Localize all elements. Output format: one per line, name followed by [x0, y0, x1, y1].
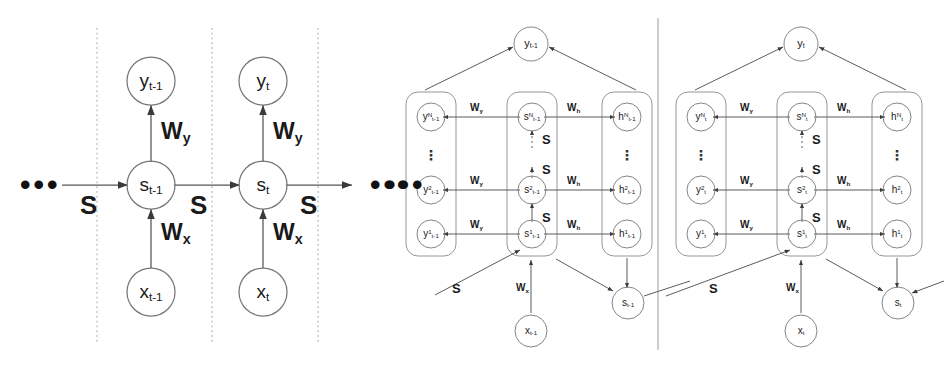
edge-hcol-to-y-t — [819, 47, 906, 90]
weight-label-wy-2-t-1: Wy — [470, 176, 483, 187]
weight-label-wy-N-t: Wy — [740, 103, 753, 114]
skip-label-s-t-1: S — [452, 282, 461, 295]
weight-label-wh-N-t-1: Wh — [567, 103, 580, 114]
node-label-y-t-1: yt-1 — [139, 71, 162, 92]
node-label-y1-t: y1t — [696, 229, 706, 240]
node-label-hN-t-1: hNt-1 — [618, 112, 635, 123]
edge-ycol-to-y-t — [695, 47, 783, 90]
node-label-s-t-1: st-1 — [139, 175, 162, 196]
weight-label-wh-1-t: Wh — [837, 220, 850, 231]
node-label-x-t-1-r: xt-1 — [525, 326, 537, 337]
weight-label-wh-2-t: Wh — [837, 176, 850, 187]
edge-hcol-to-y-t-1 — [549, 47, 636, 90]
stack-label-s-2-t: S — [812, 163, 821, 176]
weight-label-wx-t-1-r: Wx — [516, 283, 529, 294]
skip-label-s-t: S — [709, 282, 718, 295]
node-label-y-agg-t: yt — [797, 38, 804, 51]
node-label-h2-t-1: h2t-1 — [619, 185, 635, 196]
node-label-x-t-r: xt — [798, 326, 805, 337]
vertical-ellipsis-h-t-1: ⋮ — [620, 148, 634, 162]
weight-label-wy-1-t: Wy — [740, 220, 753, 231]
node-label-hN-t: hNt — [891, 112, 903, 123]
node-label-yN-t: yNt — [695, 112, 706, 123]
node-label-y-agg-t-1: yt-1 — [524, 38, 537, 51]
node-label-s-t: st — [257, 175, 270, 196]
node-label-s2-t: s2t — [797, 185, 807, 196]
left-ellipsis-start: ••• — [20, 170, 61, 200]
weight-label-wy-N-t-1: Wy — [470, 103, 483, 114]
weight-label-wy-t: Wy — [273, 120, 303, 145]
recurrent-label-s-3: S — [300, 192, 317, 218]
stack-label-s-2-t-1: S — [542, 163, 551, 176]
node-label-x-t-1: xt-1 — [139, 282, 162, 303]
right-diagram-group — [406, 18, 944, 350]
node-label-y1-t-1: y1t-1 — [423, 229, 439, 240]
edge-ycol-to-y-t-1 — [425, 47, 513, 90]
stack-label-s-1-t-1: S — [542, 211, 551, 224]
weight-label-wx-t-1: Wx — [161, 221, 191, 246]
stack-label-s-1-t: S — [812, 211, 821, 224]
weight-label-wy-1-t-1: Wy — [470, 220, 483, 231]
edge-skip-S-t — [666, 250, 790, 296]
node-label-yN-t-1: yNt-1 — [423, 112, 440, 123]
weight-label-wh-N-t: Wh — [837, 103, 850, 114]
node-label-y-t: yt — [257, 71, 270, 92]
node-label-sN-t-1: sNt-1 — [524, 112, 541, 123]
weight-label-wy-2-t: Wy — [740, 176, 753, 187]
weight-label-wh-1-t-1: Wh — [567, 220, 580, 231]
node-label-sN-t: sNt — [796, 112, 807, 123]
node-label-h1-t: h1t — [892, 229, 903, 240]
node-label-h2-t: h2t — [892, 185, 903, 196]
node-label-s1-t: s1t — [797, 229, 807, 240]
recurrent-label-s-2: S — [190, 192, 207, 218]
node-label-s-agg-t: st — [895, 298, 902, 309]
edge-scol-to-sagg-t — [826, 259, 883, 291]
weight-label-wx-t-r: Wx — [786, 283, 799, 294]
stack-label-s-N-t-1: S — [542, 133, 551, 146]
weight-label-wy-t-1: Wy — [161, 120, 191, 145]
right-ellipsis-start: ••• — [385, 170, 426, 200]
weight-label-wh-2-t-1: Wh — [567, 176, 580, 187]
node-label-s2-t-1: s2t-1 — [524, 185, 540, 196]
edge-sagg-in-t — [912, 281, 944, 293]
left-diagram-group — [62, 28, 352, 343]
edge-scol-to-sagg-t-1 — [556, 259, 613, 291]
node-label-y2-t: y2t — [696, 185, 706, 196]
edge-sagg-out-t-1 — [644, 281, 690, 296]
vertical-ellipsis-y-t: ⋮ — [694, 148, 708, 162]
node-label-x-t: xt — [257, 282, 270, 303]
stack-label-s-N-t: S — [812, 133, 821, 146]
weight-label-wx-t: Wx — [273, 221, 303, 246]
recurrent-label-s-1: S — [80, 192, 97, 218]
vertical-ellipsis-h-t: ⋮ — [890, 148, 904, 162]
figure-canvas: ••• ••• yt-1 st-1 xt-1 yt st xt Wy Wx Wy… — [0, 0, 949, 367]
vertical-ellipsis-y-t-1: ⋮ — [424, 148, 438, 162]
node-label-s-agg-t-1: st-1 — [622, 298, 634, 309]
edge-skip-S-t-1 — [435, 250, 520, 295]
node-label-h1-t-1: h1t-1 — [619, 229, 635, 240]
node-label-y2-t-1: y2t-1 — [423, 185, 439, 196]
node-label-s1-t-1: s1t-1 — [524, 229, 540, 240]
